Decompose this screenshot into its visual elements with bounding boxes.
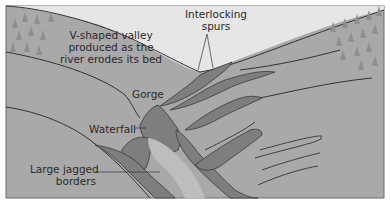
label-large-jagged-borders: Large jagged borders xyxy=(30,163,96,187)
label-interlocking-spurs: Interlocking spurs xyxy=(176,8,256,32)
label-line: river erodes its bed xyxy=(56,53,166,65)
label-line: produced as the xyxy=(56,41,166,53)
label-line: spurs xyxy=(176,20,256,32)
label-line: Large jagged xyxy=(30,163,96,175)
label-waterfall: Waterfall xyxy=(89,123,136,135)
label-line: V-shaped valley xyxy=(56,29,166,41)
label-line: Interlocking xyxy=(176,8,256,20)
label-gorge: Gorge xyxy=(132,88,164,100)
label-v-shaped-valley: V-shaped valley produced as the river er… xyxy=(56,29,166,65)
label-line: borders xyxy=(30,175,96,187)
